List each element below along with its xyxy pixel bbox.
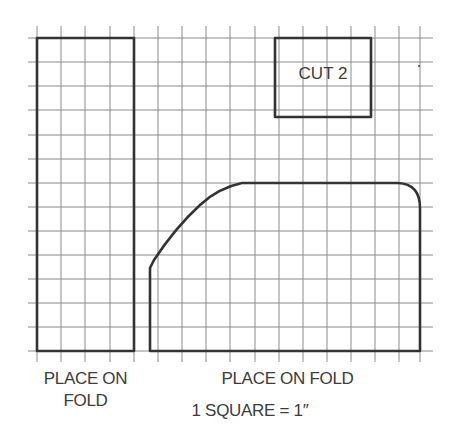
- left-fold-label-line1: PLACE ON: [28, 368, 143, 390]
- stray-dot: [418, 65, 420, 67]
- left-fold-label: PLACE ON FOLD: [28, 368, 143, 412]
- cut-2-label: CUT 2: [275, 64, 371, 84]
- left-fold-label-line2: FOLD: [28, 390, 143, 412]
- main-piece-outline: [150, 183, 420, 351]
- scale-note: 1 SQUARE = 1″: [150, 400, 350, 422]
- main-fold-label: PLACE ON FOLD: [180, 368, 395, 390]
